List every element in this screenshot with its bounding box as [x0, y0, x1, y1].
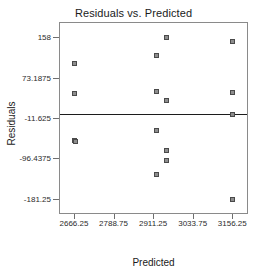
x-axis-tick-label: 3033.75	[178, 219, 207, 228]
plot-area	[59, 22, 248, 214]
data-point	[230, 90, 235, 95]
x-axis-tick-label: 2788.75	[99, 219, 128, 228]
residuals-vs-predicted-chart: Residuals vs. Predicted Residuals Predic…	[0, 0, 267, 279]
data-point	[72, 91, 77, 96]
y-axis-tick-label: -181.25	[24, 194, 51, 203]
x-axis-tick-label: 2911.25	[139, 219, 167, 228]
data-point	[164, 158, 169, 163]
y-axis-tick-label: -11.625	[24, 114, 51, 123]
y-axis-tick-label: 73.1875	[22, 73, 51, 82]
x-axis-tick-mark	[153, 214, 154, 219]
x-axis-tick-mark	[74, 214, 75, 219]
y-axis-tick-labels: 15873.1875-11.625-96.4375-181.25	[0, 0, 51, 279]
data-point	[230, 197, 235, 202]
zero-reference-line	[60, 114, 247, 115]
x-axis-title: Predicted	[59, 257, 248, 268]
data-point	[154, 128, 159, 133]
data-point	[164, 98, 169, 103]
x-axis-tick-mark	[193, 214, 194, 219]
data-point	[164, 35, 169, 40]
x-axis-tick-label: 3156.25	[218, 219, 247, 228]
data-point	[154, 172, 159, 177]
data-point	[154, 89, 159, 94]
data-point	[154, 53, 159, 58]
data-point	[72, 61, 77, 66]
data-point	[164, 148, 169, 153]
x-axis-tick-mark	[232, 214, 233, 219]
y-axis-tick-label: 158	[38, 33, 51, 42]
y-axis-tick-label: -96.4375	[19, 154, 51, 163]
x-axis-tick-mark	[114, 214, 115, 219]
data-point	[230, 39, 235, 44]
data-point	[73, 139, 78, 144]
x-axis-tick-label: 2666.25	[59, 219, 88, 228]
data-point	[230, 112, 235, 117]
